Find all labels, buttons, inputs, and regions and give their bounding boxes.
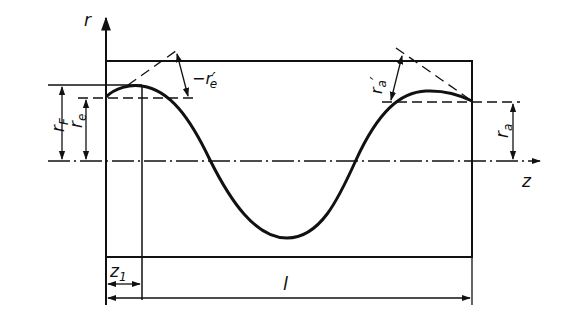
length-label: l — [283, 273, 288, 294]
ra-prime-dimension — [391, 56, 402, 100]
ra-label: ra — [492, 124, 515, 138]
profile-diagram: r z rF re −r′e ra′ ra z1 l — [0, 0, 563, 327]
profile-curve — [106, 85, 472, 238]
z-axis-label: z — [521, 171, 532, 191]
right-tangent-line — [396, 48, 472, 101]
z1-label: z1 — [109, 261, 127, 284]
re-prime-label: −r′e — [192, 69, 217, 91]
ra-prime-label: ra′ — [367, 76, 389, 94]
left-tangent-line — [128, 48, 180, 85]
r-axis-label: r — [84, 10, 92, 30]
body-rectangle — [106, 61, 472, 257]
